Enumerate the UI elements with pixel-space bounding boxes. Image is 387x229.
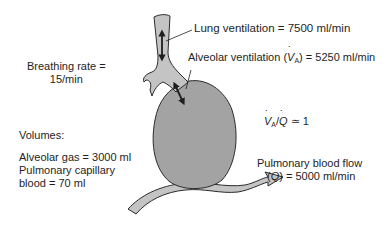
q-dot-symbol: Q — [271, 170, 280, 183]
v-dot-symbol: V — [287, 51, 294, 64]
va-q-ratio-label: VA/Q ≃ 1 — [264, 115, 309, 131]
airway-trachea — [143, 15, 188, 96]
alveolar-gas-volume: Alveolar gas = 3000 ml — [19, 151, 131, 164]
ratio-v-dot: V — [264, 115, 271, 128]
blood-flow-line2: (Q) = 5000 ml/min — [257, 170, 362, 183]
capillary-blood-volume: blood = 70 ml — [19, 177, 131, 190]
ratio-q-dot: Q — [279, 115, 288, 128]
alveolus-sac — [153, 81, 236, 189]
alveolar-ventilation-value: ) = 5250 ml/min — [299, 51, 375, 63]
breathing-rate-label: Breathing rate = 15/min — [27, 60, 106, 86]
lung-ventilation-leader — [166, 30, 192, 41]
pulmonary-blood-flow-label: Pulmonary blood flow (Q) = 5000 ml/min — [257, 157, 362, 183]
alveolar-ventilation-label: Alveolar ventilation (VA) = 5250 ml/min — [188, 51, 375, 67]
volumes-list: Alveolar gas = 3000 ml Pulmonary capilla… — [19, 151, 131, 190]
lung-ventilation-label: Lung ventilation = 7500 ml/min — [194, 22, 350, 35]
volumes-heading: Volumes: — [19, 129, 64, 142]
breathing-rate-value: 15/min — [27, 73, 106, 86]
blood-flow-value: ) = 5000 ml/min — [279, 170, 355, 182]
ratio-value: ≃ 1 — [288, 115, 309, 127]
breathing-rate-line1: Breathing rate = — [27, 60, 106, 73]
alveolar-ventilation-prefix: Alveolar ventilation ( — [188, 51, 287, 63]
capillary-blood-line1: Pulmonary capillary — [19, 164, 131, 177]
